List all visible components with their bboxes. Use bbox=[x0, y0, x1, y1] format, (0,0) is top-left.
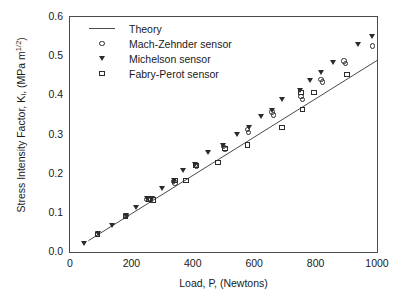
y-tick-label: 0.1 bbox=[9, 206, 63, 218]
data-point-circle bbox=[370, 43, 375, 48]
y-tick-label: 0.3 bbox=[9, 128, 63, 140]
data-point-triangle-down bbox=[258, 114, 264, 119]
data-point-square bbox=[222, 146, 227, 151]
legend-label: Michelson sensor bbox=[122, 53, 211, 65]
data-point-triangle-down bbox=[355, 42, 361, 47]
data-point-triangle-down bbox=[205, 150, 211, 155]
data-point-square bbox=[298, 90, 303, 95]
data-point-triangle-down bbox=[133, 205, 139, 210]
data-point-triangle-down bbox=[159, 186, 165, 191]
data-point-triangle-down bbox=[246, 125, 252, 130]
x-tick-label: 800 bbox=[286, 257, 346, 269]
data-point-square bbox=[183, 178, 188, 183]
x-tick-label: 400 bbox=[163, 257, 223, 269]
x-tick-label: 600 bbox=[224, 257, 284, 269]
chart-legend: TheoryMach-Zehnder sensorMichelson senso… bbox=[82, 21, 232, 81]
y-axis-title-prefix: Stress Intensity Factor, K bbox=[15, 96, 27, 213]
legend-key-line-icon bbox=[82, 28, 122, 29]
y-tick-label: 0.4 bbox=[9, 88, 63, 100]
data-point-triangle-down bbox=[109, 223, 115, 228]
x-tick-label: 200 bbox=[101, 257, 161, 269]
data-point-square bbox=[279, 125, 284, 130]
data-point-square bbox=[245, 142, 250, 147]
legend-key-circle-icon bbox=[82, 41, 122, 46]
data-point-triangle-down bbox=[318, 70, 324, 75]
data-point-square bbox=[344, 72, 349, 77]
data-point-circle bbox=[343, 61, 348, 66]
data-point-triangle-down bbox=[234, 132, 240, 137]
y-tick-label: 0.2 bbox=[9, 167, 63, 179]
data-point-triangle-down bbox=[369, 34, 375, 39]
data-point-square bbox=[215, 160, 220, 165]
legend-item-square: Fabry-Perot sensor bbox=[82, 66, 232, 81]
x-axis-title: Load, P, (Newtons) bbox=[69, 277, 378, 289]
data-point-square bbox=[300, 107, 305, 112]
data-point-square bbox=[311, 90, 316, 95]
data-point-square bbox=[95, 232, 100, 237]
y-axis-title-suffix: ) bbox=[15, 37, 27, 41]
data-point-circle bbox=[246, 130, 251, 135]
x-tick-label: 0 bbox=[40, 257, 100, 269]
data-point-square bbox=[172, 178, 177, 183]
y-tick-label: 0.0 bbox=[9, 245, 63, 257]
data-point-triangle-down bbox=[307, 78, 313, 83]
legend-item-line: Theory bbox=[82, 21, 232, 36]
legend-key-square-icon bbox=[82, 71, 122, 76]
legend-label: Fabry-Perot sensor bbox=[122, 68, 219, 80]
data-point-circle bbox=[320, 79, 325, 84]
data-point-triangle-down bbox=[81, 241, 87, 246]
legend-label: Mach-Zehnder sensor bbox=[122, 38, 232, 50]
data-point-triangle-down bbox=[279, 97, 285, 102]
data-point-square bbox=[123, 214, 128, 219]
y-tick-label: 0.5 bbox=[9, 49, 63, 61]
y-tick-label: 0.6 bbox=[9, 10, 63, 22]
data-point-square bbox=[151, 197, 156, 202]
data-point-circle bbox=[300, 97, 305, 102]
data-point-triangle-down bbox=[180, 168, 186, 173]
data-point-triangle-down bbox=[269, 108, 275, 113]
data-point-square bbox=[193, 163, 198, 168]
legend-item-circle: Mach-Zehnder sensor bbox=[82, 36, 232, 51]
data-point-triangle-down bbox=[330, 60, 336, 65]
legend-key-triangle-down-icon bbox=[82, 56, 122, 61]
x-tick-label: 1000 bbox=[347, 257, 404, 269]
chart-figure: Stress Intensity Factor, KI, (MPa m1/2) … bbox=[0, 0, 404, 307]
legend-item-triangle-down: Michelson sensor bbox=[82, 51, 232, 66]
legend-label: Theory bbox=[122, 23, 162, 35]
theory-line bbox=[88, 60, 377, 240]
